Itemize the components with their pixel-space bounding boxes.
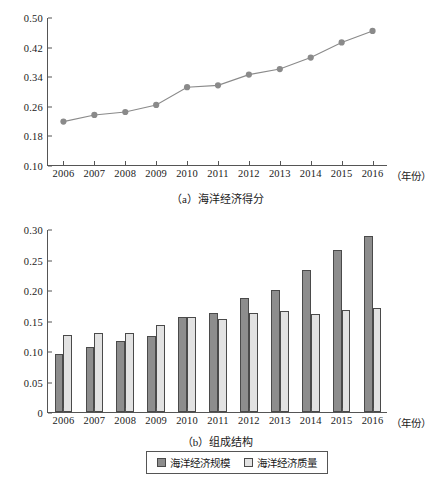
y-axis-tick-label-0: 0.10	[24, 161, 48, 172]
line-chart-plot-area: 0.100.180.260.340.420.502006200720082009…	[47, 18, 387, 166]
x-axis-tick-label-4: 2010	[176, 415, 198, 426]
legend-swatch-icon-1	[244, 458, 253, 467]
x-axis-tick-mark-1	[94, 408, 95, 412]
data-point-2015[interactable]	[339, 39, 345, 45]
bar-group-2012	[233, 229, 264, 412]
panel-b-caption: （b）组成结构	[0, 433, 435, 449]
bar-2013-series-1[interactable]	[280, 311, 289, 412]
y-axis-tick-label-6: 0.30	[24, 225, 48, 236]
bar-2013-series-0[interactable]	[271, 290, 280, 412]
bar-group-2015	[326, 229, 357, 412]
x-axis-tick-mark-3	[156, 408, 157, 412]
y-axis-tick-label-2: 0.10	[24, 347, 48, 358]
legend-label-0: 海洋经济规模	[170, 455, 230, 470]
x-axis-tick-label-9: 2015	[331, 415, 353, 426]
x-axis-tick-label-0: 2006	[53, 168, 75, 179]
x-axis-tick-label-6: 2012	[238, 415, 260, 426]
bar-2014-series-0[interactable]	[302, 270, 311, 412]
x-axis-tick-label-9: 2015	[331, 168, 353, 179]
bar-group-2013	[264, 229, 295, 412]
bar-group-2006	[48, 229, 79, 412]
x-axis-unit-label: （年份）	[391, 415, 431, 430]
line-series-graphic	[48, 18, 388, 166]
y-axis-tick-label-3: 0.15	[24, 316, 48, 327]
data-point-2007[interactable]	[91, 112, 97, 118]
line-chart-panel: 0.100.180.260.340.420.502006200720082009…	[0, 0, 435, 215]
data-point-2009[interactable]	[153, 102, 159, 108]
bar-group-2007	[79, 229, 110, 412]
bar-group-2016	[357, 229, 388, 412]
x-axis-tick-label-10: 2016	[362, 168, 384, 179]
x-axis-tick-mark-2	[125, 408, 126, 412]
bar-2012-series-1[interactable]	[249, 313, 258, 412]
x-axis-unit-label: （年份）	[391, 168, 431, 183]
bar-2016-series-1[interactable]	[373, 308, 382, 412]
data-point-2013[interactable]	[277, 66, 283, 72]
bar-2011-series-1[interactable]	[218, 319, 227, 412]
data-point-2014[interactable]	[308, 54, 314, 60]
x-axis-tick-label-10: 2016	[362, 415, 384, 426]
x-axis-tick-label-6: 2012	[238, 168, 260, 179]
x-axis-tick-label-4: 2010	[176, 168, 198, 179]
y-axis-tick-label-0: 0	[38, 408, 48, 419]
x-axis-tick-mark-9	[342, 408, 343, 412]
data-point-2016[interactable]	[369, 28, 375, 34]
x-axis-tick-mark-7	[280, 408, 281, 412]
x-axis-tick-label-5: 2011	[207, 168, 228, 179]
y-axis-tick-label-2: 0.26	[24, 101, 48, 112]
x-axis-tick-label-7: 2013	[269, 168, 291, 179]
x-axis-tick-label-8: 2014	[300, 415, 322, 426]
chart-legend: 海洋经济规模 海洋经济质量	[146, 451, 328, 474]
legend-label-1: 海洋经济质量	[257, 455, 317, 470]
bar-chart-panel: 00.050.100.150.200.250.30200620072008200…	[0, 225, 435, 479]
x-axis-tick-label-0: 2006	[53, 415, 75, 426]
line-path	[63, 31, 372, 122]
bar-2006-series-1[interactable]	[63, 335, 72, 412]
x-axis-tick-mark-10	[373, 408, 374, 412]
data-point-2012[interactable]	[246, 72, 252, 78]
bar-2010-series-1[interactable]	[187, 317, 196, 412]
data-point-2006[interactable]	[60, 119, 66, 125]
y-axis-tick-label-3: 0.34	[24, 72, 48, 83]
y-axis-tick-mark-0	[48, 413, 52, 414]
y-axis-tick-label-4: 0.42	[24, 42, 48, 53]
bar-group-2014	[295, 229, 326, 412]
bar-2007-series-0[interactable]	[86, 347, 95, 412]
legend-item-0[interactable]: 海洋经济规模	[157, 455, 230, 470]
bar-2015-series-0[interactable]	[333, 250, 342, 412]
figure-root: 0.100.180.260.340.420.502006200720082009…	[0, 0, 435, 479]
bar-2006-series-0[interactable]	[55, 354, 64, 412]
bar-2009-series-0[interactable]	[147, 336, 156, 412]
x-axis-tick-mark-4	[187, 408, 188, 412]
bar-2010-series-0[interactable]	[178, 317, 187, 412]
y-axis-tick-label-5: 0.25	[24, 255, 48, 266]
x-axis-tick-mark-0	[63, 408, 64, 412]
bar-2007-series-1[interactable]	[94, 333, 103, 412]
bar-2009-series-1[interactable]	[156, 325, 165, 412]
x-axis-tick-mark-5	[218, 408, 219, 412]
y-axis-tick-label-1: 0.05	[24, 377, 48, 388]
data-point-2008[interactable]	[122, 109, 128, 115]
x-axis-tick-label-7: 2013	[269, 415, 291, 426]
bar-group-2008	[110, 229, 141, 412]
x-axis-tick-label-1: 2007	[83, 168, 105, 179]
legend-item-1[interactable]: 海洋经济质量	[244, 455, 317, 470]
bar-group-2009	[141, 229, 172, 412]
legend-swatch-icon-0	[157, 458, 166, 467]
bar-group-2010	[172, 229, 203, 412]
panel-a-caption: （a）海洋经济得分	[0, 190, 435, 206]
bar-chart-plot-area: 00.050.100.150.200.250.30200620072008200…	[47, 230, 387, 413]
bar-2014-series-1[interactable]	[311, 314, 320, 412]
bar-2011-series-0[interactable]	[209, 313, 218, 412]
bar-2016-series-0[interactable]	[364, 236, 373, 412]
data-point-2011[interactable]	[215, 82, 221, 88]
bar-2015-series-1[interactable]	[342, 310, 351, 412]
x-axis-tick-label-2: 2008	[114, 415, 136, 426]
bar-2008-series-0[interactable]	[116, 341, 125, 412]
x-axis-tick-mark-6	[249, 408, 250, 412]
y-axis-tick-label-4: 0.20	[24, 286, 48, 297]
data-point-2010[interactable]	[184, 84, 190, 90]
bar-2012-series-0[interactable]	[240, 298, 249, 412]
bar-2008-series-1[interactable]	[125, 333, 134, 412]
y-axis-tick-label-1: 0.18	[24, 131, 48, 142]
